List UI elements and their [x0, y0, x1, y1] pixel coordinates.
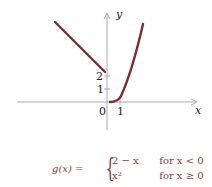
case-2-condition: for x ≥ 0: [159, 170, 203, 181]
formula-case-2: x² for x ≥ 0: [112, 170, 204, 181]
y-axis-label: y: [115, 8, 123, 21]
piecewise-formula: g(x) = { 2 − x for x < 0 x² for x ≥ 0: [52, 153, 212, 187]
y-tick-label-1: 1: [97, 83, 104, 96]
case-2-expression: x²: [112, 170, 156, 181]
case-1-condition: for x < 0: [159, 155, 203, 166]
formula-case-1: 2 − x for x < 0: [112, 155, 204, 166]
x-tick-label-1: 1: [117, 105, 124, 118]
function-name: g(x) =: [52, 163, 83, 174]
y-tick-label-2: 2: [96, 70, 103, 83]
line-segment-2-minus-x: [55, 22, 105, 72]
origin-label: 0: [99, 105, 106, 118]
case-1-expression: 2 − x: [112, 155, 156, 166]
parabola-x-squared: [110, 24, 143, 102]
x-axis-label: x: [195, 104, 202, 117]
